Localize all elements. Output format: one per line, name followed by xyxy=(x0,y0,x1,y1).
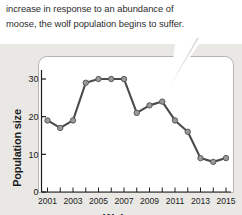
wolves-line-chart: 010203020012003200520072009201120132015 xyxy=(0,50,242,215)
data-point xyxy=(211,159,216,164)
data-point xyxy=(134,110,139,115)
data-point xyxy=(121,76,126,81)
x-tick-label: 2001 xyxy=(38,196,57,206)
y-tick-label: 20 xyxy=(28,112,38,122)
data-point xyxy=(70,118,75,123)
data-point xyxy=(109,76,114,81)
y-axis-label: Population size xyxy=(11,104,23,192)
data-point xyxy=(96,76,101,81)
data-point xyxy=(172,118,177,123)
data-point xyxy=(223,155,228,160)
y-tick-label: 10 xyxy=(28,150,38,160)
x-tick-label: 2013 xyxy=(191,196,210,206)
y-tick-label: 30 xyxy=(28,74,38,84)
data-point xyxy=(45,118,50,123)
x-tick-label: 2005 xyxy=(89,196,108,206)
x-tick-label: 2015 xyxy=(216,196,235,206)
data-point xyxy=(198,155,203,160)
data-point xyxy=(58,125,63,130)
data-point xyxy=(147,103,152,108)
x-tick-label: 2007 xyxy=(114,196,133,206)
x-tick-label: 2009 xyxy=(140,196,159,206)
data-point xyxy=(185,129,190,134)
figure-page: increase in response to an abundance of … xyxy=(0,0,242,215)
caption-line-1: increase in response to an abundance of xyxy=(6,2,236,17)
x-tick-label: 2003 xyxy=(63,196,82,206)
chart-plot-area: 010203020012003200520072009201120132015 … xyxy=(0,50,242,215)
data-point xyxy=(160,99,165,104)
series-label-wolves: Wolves xyxy=(103,212,142,215)
caption-line-2: moose, the wolf population begins to suf… xyxy=(6,17,236,32)
x-tick-label: 2011 xyxy=(166,196,185,206)
data-point xyxy=(83,80,88,85)
caption-callout: increase in response to an abundance of … xyxy=(0,0,242,44)
